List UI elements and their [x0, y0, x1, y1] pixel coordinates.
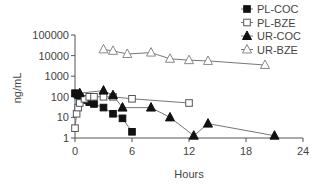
y-tick-label: 10 [57, 111, 69, 123]
y-tick-label: 100000 [32, 29, 69, 41]
marker-filled-square [110, 110, 117, 117]
pharmacokinetics-chart: 11010010001000010000006121824 PL-COCPL-B… [0, 0, 324, 184]
legend: PL-COCPL-BZEUR-COCUR-BZE [241, 3, 301, 56]
series-pl-bze [72, 94, 193, 132]
x-tick-label: 0 [72, 145, 78, 157]
marker-filled-square [91, 101, 98, 108]
marker-filled-triangle [147, 103, 156, 112]
x-tick-label: 6 [129, 145, 135, 157]
legend-label: PL-COC [257, 3, 299, 15]
marker-open-square [72, 125, 79, 132]
marker-filled-triangle [99, 86, 108, 95]
x-tick-label: 18 [240, 145, 252, 157]
x-tick-label: 24 [297, 145, 309, 157]
marker-filled-triangle [243, 31, 252, 40]
legend-item-pl-bze: PL-BZE [241, 17, 296, 29]
marker-open-triangle [261, 60, 270, 68]
marker-filled-square [100, 104, 107, 111]
y-tick-label: 10000 [38, 50, 69, 62]
series-ur-coc [75, 86, 279, 140]
marker-open-square [73, 110, 80, 117]
y-tick-label: 1 [63, 132, 69, 144]
x-axis-label: Hours [174, 168, 204, 180]
series-ur-bze [99, 44, 270, 68]
legend-item-pl-coc: PL-COC [241, 3, 299, 15]
legend-item-ur-coc: UR-COC [241, 30, 301, 42]
marker-filled-triangle [189, 131, 198, 140]
marker-open-square [244, 19, 251, 26]
legend-label: PL-BZE [257, 17, 296, 29]
marker-filled-triangle [204, 119, 213, 128]
y-tick-label: 1000 [45, 70, 69, 82]
marker-open-triangle [147, 48, 156, 57]
marker-open-triangle [99, 44, 108, 53]
series-layer [72, 44, 279, 139]
legend-label: UR-COC [257, 30, 301, 42]
marker-filled-square [119, 115, 126, 122]
marker-filled-square [244, 6, 251, 13]
marker-open-triangle [243, 45, 252, 54]
marker-filled-square [129, 128, 136, 135]
marker-open-triangle [204, 56, 213, 65]
legend-label: UR-BZE [257, 44, 298, 56]
marker-open-square [186, 100, 193, 107]
marker-open-square [91, 94, 98, 101]
y-tick-label: 100 [51, 91, 69, 103]
marker-open-square [129, 95, 136, 102]
legend-item-ur-bze: UR-BZE [241, 44, 298, 56]
x-tick-label: 12 [183, 145, 195, 157]
marker-filled-triangle [166, 112, 175, 121]
marker-open-triangle [185, 55, 194, 64]
y-axis-label: ng/mL [11, 73, 23, 104]
